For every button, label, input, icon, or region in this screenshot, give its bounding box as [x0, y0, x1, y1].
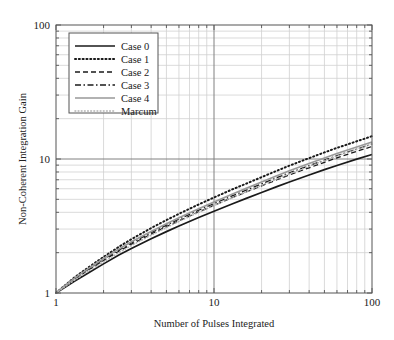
- y-tick-label: 100: [34, 19, 51, 31]
- log-log-line-chart: 110100 110100 Number of Pulses Integrate…: [0, 0, 394, 340]
- x-axis-title: Number of Pulses Integrated: [154, 318, 275, 329]
- x-tick-label: 100: [364, 296, 381, 308]
- legend-label-case-1: Case 1: [121, 54, 149, 65]
- legend: Case 0Case 1Case 2Case 3Case 4Marcum: [69, 33, 158, 117]
- x-tick-label: 10: [209, 296, 221, 308]
- legend-label-marcum: Marcum: [121, 106, 157, 117]
- y-tick-label: 1: [45, 287, 51, 299]
- y-tick-label: 10: [39, 153, 51, 165]
- legend-label-case-2: Case 2: [121, 67, 149, 78]
- x-tick-label: 1: [53, 296, 59, 308]
- legend-label-case-4: Case 4: [121, 93, 150, 104]
- legend-label-case-0: Case 0: [121, 41, 149, 52]
- legend-label-case-3: Case 3: [121, 80, 149, 91]
- x-tick-labels: 110100: [53, 296, 381, 308]
- y-axis-title: Non-Coherent Integration Gain: [17, 92, 28, 225]
- y-tick-labels: 110100: [34, 19, 51, 299]
- chart-figure: 110100 110100 Number of Pulses Integrate…: [0, 0, 394, 340]
